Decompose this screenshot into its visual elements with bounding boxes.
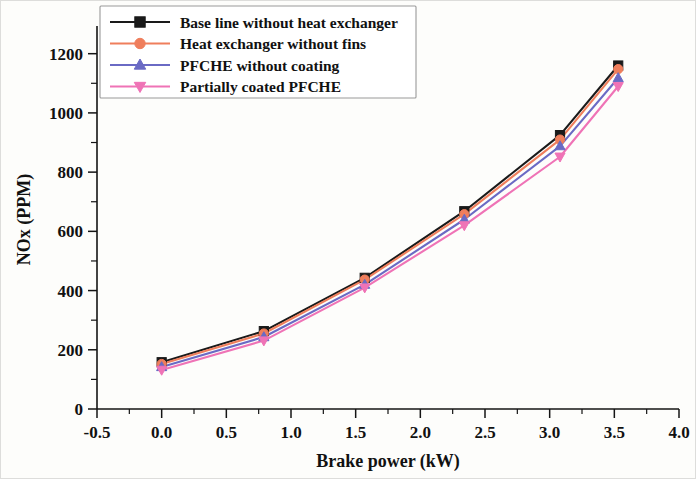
y-axis-tick-label: 1000 (49, 104, 83, 123)
y-axis-tick-label: 400 (58, 282, 84, 301)
y-axis-tick-label: 0 (75, 400, 84, 419)
x-axis-tick-label: 1.5 (345, 423, 366, 442)
data-point-marker (555, 153, 565, 162)
data-point-marker (459, 222, 469, 231)
legend-label-0: Base line without heat exchanger (180, 14, 398, 31)
x-axis-tick-label: 0.5 (216, 423, 237, 442)
series-line-2 (162, 78, 619, 367)
x-axis-tick-label: 3.5 (604, 423, 625, 442)
x-axis-tick-label: 0.0 (151, 423, 172, 442)
x-axis-tick-label: 3.0 (539, 423, 560, 442)
x-axis-title: Brake power (kW) (316, 451, 460, 472)
x-axis-tick-label: 1.0 (280, 423, 301, 442)
x-axis-tick-label: 2.5 (474, 423, 495, 442)
legend-label-2: PFCHE without coating (180, 57, 340, 74)
legend-marker-1 (135, 38, 145, 48)
series-line-3 (162, 86, 619, 370)
series-line-1 (162, 69, 619, 364)
series-line-0 (162, 66, 619, 363)
y-axis-tick-label: 1200 (49, 45, 83, 64)
y-axis-tick-label: 200 (58, 341, 84, 360)
x-axis-tick-label: -0.5 (84, 423, 111, 442)
y-axis-tick-label: 800 (58, 163, 84, 182)
plot-area: 020040060080010001200-0.50.00.51.01.52.0… (14, 6, 690, 472)
y-axis-title: NOx (PPM) (14, 174, 35, 265)
legend-label-3: Partially coated PFCHE (180, 78, 341, 95)
x-axis-tick-label: 4.0 (668, 423, 689, 442)
x-axis-tick-label: 2.0 (410, 423, 431, 442)
figure-container: 020040060080010001200-0.50.00.51.01.52.0… (0, 0, 696, 479)
legend-marker-0 (135, 17, 145, 27)
nox-vs-brake-power-chart: 020040060080010001200-0.50.00.51.01.52.0… (0, 0, 696, 479)
legend-label-1: Heat exchanger without fins (180, 35, 366, 52)
y-axis-tick-label: 600 (58, 222, 84, 241)
